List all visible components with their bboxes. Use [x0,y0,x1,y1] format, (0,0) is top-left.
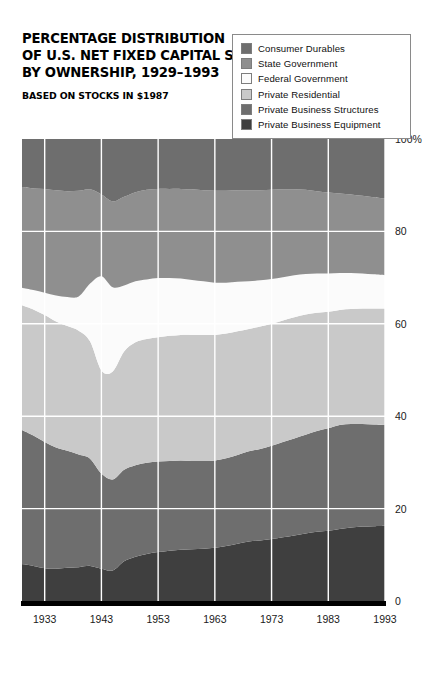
legend-item-label: Federal Government [258,73,348,84]
y-axis-tick-label: 60 [395,318,407,330]
x-axis-tick-label: 1973 [260,613,284,625]
chart-areas [22,139,385,601]
x-axis-tick-label: 1993 [373,613,397,625]
x-axis-tick-label: 1943 [90,613,114,625]
y-axis-labels: 020406080100% [395,133,422,607]
legend-item-label: Private Residential [258,89,340,100]
legend-item-consumer-durables[interactable]: Consumer Durables [241,41,402,56]
legend-item-label: Private Business Structures [258,104,379,115]
legend-item-private-business-structures[interactable]: Private Business Structures [241,102,402,117]
y-axis-tick-label: 0 [395,595,401,607]
chart-legend: Consumer Durables State Government Feder… [232,34,411,139]
y-axis-tick-label: 20 [395,503,407,515]
x-axis-tick-label: 1963 [203,613,227,625]
legend-item-label: Private Business Equipment [258,119,381,130]
y-axis-tick-label: 80 [395,225,407,237]
legend-swatch-icon [241,58,252,69]
chart-baseline [21,601,386,606]
legend-item-federal-government[interactable]: Federal Government [241,71,402,86]
legend-item-private-residential[interactable]: Private Residential [241,87,402,102]
x-axis-tick-label: 1953 [146,613,170,625]
legend-item-label: State Government [258,58,337,69]
legend-swatch-icon [241,73,252,84]
legend-swatch-icon [241,119,252,130]
legend-item-label: Consumer Durables [258,43,345,54]
x-axis-baseline [21,601,386,606]
x-axis-labels: 1933194319531963197319831993 [33,613,397,625]
legend-swatch-icon [241,89,252,100]
x-axis-tick-label: 1933 [33,613,57,625]
legend-swatch-icon [241,104,252,115]
y-axis-tick-label: 40 [395,410,407,422]
legend-item-state-government[interactable]: State Government [241,56,402,71]
x-axis-tick-label: 1983 [317,613,341,625]
legend-swatch-icon [241,43,252,54]
legend-item-private-business-equipment[interactable]: Private Business Equipment [241,117,402,132]
